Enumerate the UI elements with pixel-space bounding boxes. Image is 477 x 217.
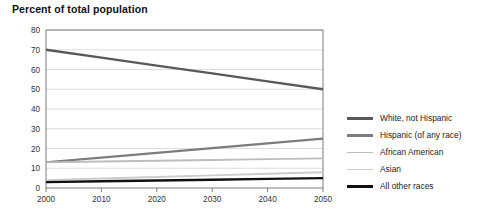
x-tick-label: 2030 (203, 195, 222, 204)
legend-item-label: All other races (380, 182, 434, 190)
y-tick-label: 40 (31, 105, 41, 114)
legend-item-label: White, not Hispanic (380, 114, 452, 122)
legend-item-label: Asian (380, 165, 401, 173)
legend-item[interactable]: Asian (347, 161, 477, 178)
x-axis-tick-marks (46, 188, 323, 192)
x-tick-label: 2040 (258, 195, 277, 204)
x-tick-label: 2020 (148, 195, 167, 204)
x-tick-label: 2000 (37, 195, 56, 204)
y-tick-label: 60 (31, 66, 41, 75)
y-tick-label: 0 (35, 184, 40, 193)
legend-item-label: Hispanic (of any race) (380, 131, 461, 139)
legend-item[interactable]: Hispanic (of any race) (347, 127, 477, 144)
y-axis-tick-labels: 01020304050607080 (31, 26, 41, 193)
y-tick-label: 30 (31, 125, 41, 134)
plot-area: 01020304050607080 2000201020202030204020… (0, 0, 340, 205)
legend-line-swatch (347, 152, 373, 154)
y-tick-label: 10 (31, 164, 41, 173)
y-tick-label: 80 (31, 26, 41, 35)
y-tick-label: 70 (31, 46, 41, 55)
legend-line-swatch (347, 117, 373, 119)
x-axis-tick-labels: 200020102020203020402050 (37, 195, 333, 204)
y-tick-label: 50 (31, 85, 41, 94)
x-tick-label: 2050 (314, 195, 333, 204)
legend-line-swatch (347, 185, 373, 187)
legend-item[interactable]: African American (347, 144, 477, 161)
legend-line-swatch (347, 169, 373, 171)
gridlines (46, 30, 323, 168)
y-tick-label: 20 (31, 145, 41, 154)
legend-item[interactable]: White, not Hispanic (347, 110, 477, 127)
chart-figure: Percent of total population 010203040506… (0, 0, 477, 217)
legend-item[interactable]: All other races (347, 178, 477, 195)
chart-legend: White, not HispanicHispanic (of any race… (347, 110, 477, 195)
legend-line-swatch (347, 134, 373, 136)
legend-item-label: African American (380, 148, 443, 156)
x-tick-label: 2010 (92, 195, 111, 204)
line-chart-svg: 01020304050607080 2000201020202030204020… (0, 0, 340, 205)
